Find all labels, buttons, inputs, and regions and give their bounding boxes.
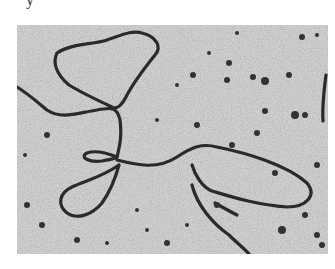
particle-dot [314,232,320,238]
particle-dot [190,72,196,78]
particle-dot [315,33,319,37]
particle-dot [229,142,235,148]
particle-dot [302,112,308,118]
speckled-background [17,25,328,254]
particle-dot [235,31,239,35]
particle-dot [44,132,50,138]
particle-dot [250,74,256,80]
caption-fragment: y [26,0,34,9]
particle-dot [23,153,27,157]
particle-dot [24,202,30,208]
particle-dot [207,51,211,55]
particle-dot [105,241,109,245]
particle-dot [175,83,179,87]
particle-dot [214,202,220,208]
particle-dot [291,111,299,119]
particle-dot [135,208,139,212]
micrograph-canvas [17,25,328,254]
particle-dot [319,242,325,248]
particle-dot [226,60,232,66]
particle-dot [194,122,200,128]
particle-dot [145,228,149,232]
electron-micrograph [17,25,328,254]
particle-dot [272,170,278,176]
particle-dot [254,130,260,136]
particle-dot [299,34,305,40]
particle-dot [302,212,308,218]
particle-dot [278,226,286,234]
particle-dot [39,222,45,228]
particle-dot [185,223,189,227]
particle-dot [74,237,80,243]
particle-dot [314,162,320,168]
particle-dot [155,118,159,122]
particle-dot [224,77,230,83]
particle-dot [261,77,269,85]
particle-dot [164,240,170,246]
particle-dot [262,108,268,114]
particle-dot [286,72,292,78]
